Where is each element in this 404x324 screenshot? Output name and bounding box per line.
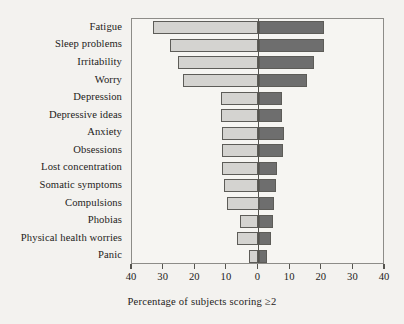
- x-axis-title: Percentage of subjects scoring ≥2: [0, 296, 404, 307]
- bar-left: [183, 74, 259, 87]
- bar-right: [259, 144, 284, 157]
- category-label: Sleep problems: [55, 37, 122, 51]
- axis-tick-label: 30: [148, 270, 178, 283]
- axis-tick-label: 0: [243, 270, 273, 283]
- axis-tick-label: 10: [211, 270, 241, 283]
- bar-right: [259, 74, 307, 87]
- axis-tick-label: 30: [337, 270, 367, 283]
- category-label: Panic: [98, 248, 122, 262]
- bar-row: [132, 179, 383, 192]
- axis-tick-mark: [257, 264, 258, 269]
- category-label: Lost concentration: [41, 160, 122, 174]
- axis-tick-mark: [130, 264, 131, 269]
- category-label: Worry: [95, 73, 122, 87]
- bar-right: [259, 127, 284, 140]
- bar-right: [259, 162, 278, 175]
- bar-left: [170, 39, 259, 52]
- bar-row: [132, 250, 383, 263]
- bar-left: [222, 162, 258, 175]
- plot-area: [131, 18, 384, 264]
- bar-row: [132, 162, 383, 175]
- bar-left: [221, 92, 259, 105]
- bar-left: [224, 179, 259, 192]
- bar-left: [221, 109, 259, 122]
- bar-right: [259, 232, 272, 245]
- bar-right: [259, 250, 268, 263]
- bar-left: [222, 144, 258, 157]
- category-label: Fatigue: [90, 20, 122, 34]
- category-label: Irritability: [77, 55, 122, 69]
- bar-row: [132, 56, 383, 69]
- bar-row: [132, 232, 383, 245]
- axis-tick-mark: [383, 264, 384, 269]
- bar-right: [259, 179, 276, 192]
- bar-row: [132, 109, 383, 122]
- bar-left: [178, 56, 259, 69]
- bar-left: [237, 232, 259, 245]
- category-label: Compulsions: [65, 196, 122, 210]
- axis-tick-label: 10: [274, 270, 304, 283]
- bar-right: [259, 215, 273, 228]
- axis-tick-mark: [289, 264, 290, 269]
- category-label: Physical health worries: [21, 231, 122, 245]
- bar-row: [132, 21, 383, 34]
- bar-row: [132, 215, 383, 228]
- bar-row: [132, 127, 383, 140]
- category-label: Phobias: [88, 213, 122, 227]
- bar-right: [259, 21, 324, 34]
- axis-tick-label: 40: [369, 270, 399, 283]
- axis-tick-mark: [162, 264, 163, 269]
- axis-tick-label: 40: [116, 270, 146, 283]
- bar-right: [259, 197, 275, 210]
- bar-left: [153, 21, 259, 34]
- bar-left: [249, 250, 258, 263]
- bar-left: [222, 127, 258, 140]
- bar-row: [132, 74, 383, 87]
- category-label: Somatic symptoms: [39, 178, 122, 192]
- bar-row: [132, 39, 383, 52]
- bar-left: [240, 215, 259, 228]
- axis-tick-mark: [352, 264, 353, 269]
- axis-tick-mark: [320, 264, 321, 269]
- bar-row: [132, 197, 383, 210]
- axis-tick-label: 20: [179, 270, 209, 283]
- axis-tick-mark: [225, 264, 226, 269]
- category-label: Anxiety: [87, 125, 122, 139]
- category-label: Depression: [73, 90, 122, 104]
- bar-row: [132, 144, 383, 157]
- axis-tick-mark: [194, 264, 195, 269]
- category-label: Obsessions: [73, 143, 122, 157]
- bar-right: [259, 56, 314, 69]
- category-axis-labels: FatigueSleep problemsIrritabilityWorryDe…: [0, 18, 126, 264]
- bar-right: [259, 92, 283, 105]
- axis-tick-label: 20: [306, 270, 336, 283]
- bar-right: [259, 39, 324, 52]
- bar-right: [259, 109, 283, 122]
- category-label: Depressive ideas: [49, 108, 122, 122]
- bar-row: [132, 92, 383, 105]
- bar-left: [227, 197, 259, 210]
- bar-chart-figure: FatigueSleep problemsIrritabilityWorryDe…: [0, 0, 404, 324]
